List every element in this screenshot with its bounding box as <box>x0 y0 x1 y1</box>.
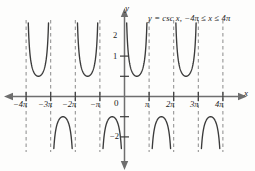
csc-branch-down <box>152 117 170 149</box>
equation-label: y = csc x, −4π ≤ x ≤ 4π <box>148 14 230 23</box>
csc-branch-up <box>28 23 48 76</box>
x-tick-label-negpi: −π <box>90 100 100 109</box>
y-tick-label-neg2: −2 <box>110 132 119 141</box>
y-axis-arrow-down <box>121 161 128 170</box>
x-axis-label: x <box>244 89 248 98</box>
x-tick-label-neg3pi: −3π <box>38 100 52 109</box>
csc-branch-up <box>77 23 97 76</box>
y-tick-label-2: 2 <box>113 31 117 40</box>
x-tick-label-2pi: 2π <box>166 100 175 109</box>
csc-branch-up <box>127 23 147 76</box>
x-axis-arrow-left <box>4 93 13 100</box>
axes-group <box>4 8 247 170</box>
x-tick-label-pi: π <box>145 100 149 109</box>
y-axis-label: y <box>125 4 129 13</box>
y-tick-label-1: 1 <box>113 52 117 61</box>
x-tick-label-neg4pi: −4π <box>13 100 27 109</box>
origin-label: 0 <box>114 99 119 108</box>
x-tick-label-neg2pi: −2π <box>62 100 76 109</box>
csc-branch-up <box>176 23 196 76</box>
x-tick-label-4pi: 4π <box>215 100 224 109</box>
x-tick-label-3pi: 3π <box>190 100 199 109</box>
csc-branch-down <box>54 117 72 149</box>
csc-branch-down <box>201 117 219 149</box>
csc-function-graph <box>0 0 255 171</box>
